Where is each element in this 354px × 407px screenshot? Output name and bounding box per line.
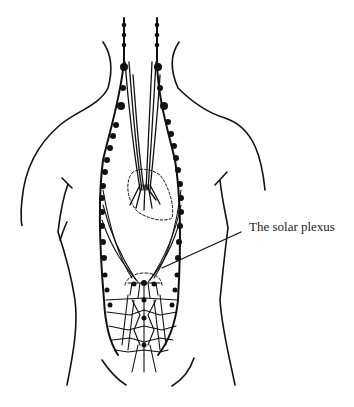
abdominal-plexus-network bbox=[106, 283, 178, 372]
splanchnic-nerves bbox=[102, 190, 181, 282]
ganglia bbox=[99, 23, 184, 308]
body-outline bbox=[21, 42, 265, 386]
nervous-system-diagram: The solar plexus bbox=[0, 0, 354, 407]
solar-plexus-label: The solar plexus bbox=[249, 219, 335, 235]
vagus-nerves bbox=[125, 62, 160, 210]
torso-illustration bbox=[0, 0, 354, 407]
